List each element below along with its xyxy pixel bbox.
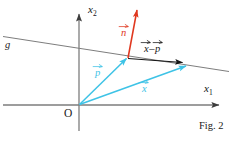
y-axis-label-subscript: 2 (93, 9, 97, 18)
vector-x-minus-p-label-p-text: p (155, 43, 160, 54)
vector-x-minus-p-label-x-text: x (144, 43, 149, 54)
vector-x-label-text: x (142, 83, 147, 94)
figure-container: x2 x1 g O n p x (0, 0, 236, 142)
x-axis-label: x1 (204, 83, 213, 97)
vector-x-minus-p-label-p-glyph: p (155, 44, 160, 55)
vector-x-label-glyph: x (142, 84, 147, 95)
line-g-label: g (5, 40, 10, 51)
figure-caption: Fig. 2 (199, 121, 224, 132)
vector-n (128, 10, 137, 58)
x-axis-label-subscript: 1 (209, 88, 213, 97)
vector-p-label-text: p (95, 67, 100, 78)
vector-p-label-glyph: p (95, 68, 100, 79)
vector-x-minus-p-label: x – p (144, 44, 160, 55)
line-g (3, 37, 229, 72)
vector-x-minus-p-label-x-glyph: x (144, 44, 149, 55)
vector-p (80, 59, 127, 105)
vector-x-label: x (142, 84, 147, 95)
origin-label: O (64, 108, 72, 120)
y-axis-label: x2 (88, 4, 97, 18)
vector-p-label: p (95, 68, 100, 79)
vector-n-label-glyph: n (121, 28, 126, 39)
vector-n-label-text: n (121, 27, 126, 38)
vector-n-label: n (121, 28, 126, 39)
vector-x-minus-p (128, 59, 183, 63)
